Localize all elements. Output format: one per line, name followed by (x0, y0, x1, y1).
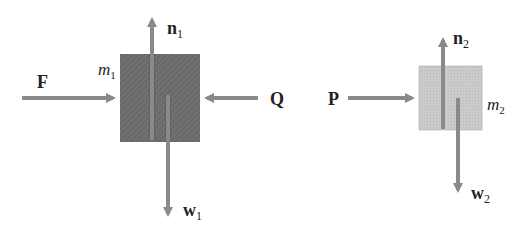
block-2-mass-label: m2 (487, 95, 505, 116)
free-body-diagram: m1 F Q n1 w1 (0, 0, 518, 237)
force-q-label: Q (270, 89, 284, 109)
weight-2-label: w2 (471, 183, 490, 206)
weight-1-label: w1 (183, 200, 202, 223)
block-2: m2 (419, 66, 505, 130)
block-1-body (120, 54, 200, 142)
force-p-label: P (328, 89, 339, 109)
normal-force-1-label: n1 (167, 18, 183, 41)
force-q-arrow: Q (207, 89, 284, 109)
force-f-label: F (37, 72, 48, 92)
diagram-svg: m1 F Q n1 w1 (0, 0, 518, 237)
block-1-mass-label: m1 (98, 60, 116, 81)
force-p-arrow: P (328, 89, 412, 109)
normal-force-2-label: n2 (453, 28, 469, 51)
block-1: m1 (98, 54, 200, 142)
block-2-body (419, 66, 482, 130)
